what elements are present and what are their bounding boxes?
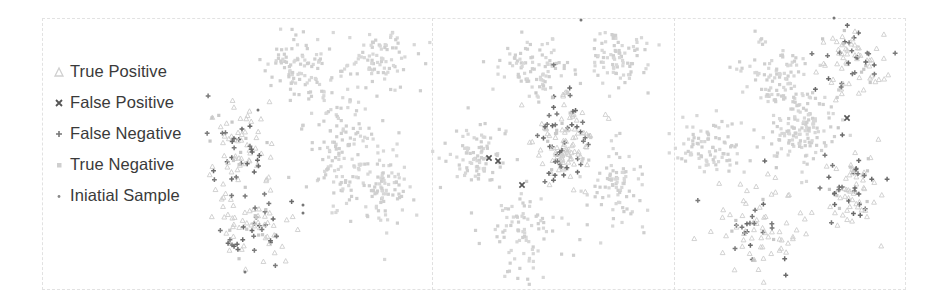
panel-2 [431, 19, 661, 286]
legend-label: True Positive [70, 62, 167, 81]
legend: True Positive False Positive False Negat… [52, 56, 181, 211]
cluster-bottom-left [209, 165, 300, 272]
panel-3 [668, 17, 898, 285]
cluster-left [431, 106, 508, 189]
panel-1 [205, 28, 432, 274]
legend-label: Iniatial Sample [70, 186, 180, 205]
cluster-center [519, 62, 611, 193]
triangle-icon [52, 65, 66, 79]
legend-item-false-negative: False Negative [52, 118, 181, 149]
cluster-left [668, 109, 756, 173]
legend-label: False Positive [70, 93, 174, 112]
cluster-top-left [258, 28, 346, 102]
legend-item-true-positive: True Positive [52, 56, 181, 87]
legend-item-initial-sample: Iniatial Sample [52, 180, 181, 211]
legend-label: False Negative [70, 124, 181, 143]
dot-icon [52, 189, 66, 203]
legend-item-false-positive: False Positive [52, 87, 181, 118]
cluster-bottom-left [470, 158, 582, 286]
plus-icon [52, 127, 66, 141]
x-icon [52, 96, 66, 110]
square-icon [52, 158, 66, 172]
cluster-top-right [579, 31, 661, 98]
cluster-top-right [314, 31, 432, 102]
cluster-top-right [810, 23, 898, 102]
cluster-bottom-left [692, 158, 814, 284]
cluster-right [818, 126, 890, 248]
legend-label: True Negative [70, 155, 174, 174]
legend-item-true-negative: True Negative [52, 149, 181, 180]
